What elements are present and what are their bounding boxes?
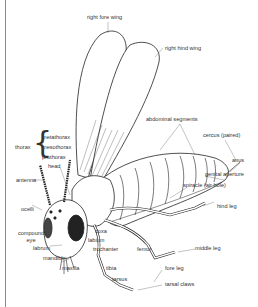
label-trochanter: trochanter (93, 247, 118, 253)
label-tibia: tibia (106, 266, 116, 272)
label-right-hind-wing: right hind wing (165, 46, 201, 52)
label-maxilla: maxilla (62, 266, 79, 272)
label-cercus: cercus (paired) (203, 133, 240, 139)
label-compound-eye-line2: eye (16, 238, 46, 244)
label-femur: femur (137, 247, 151, 253)
antenna-shape (40, 165, 50, 205)
label-antenna: antenna (16, 178, 36, 184)
label-coxa: coxa (95, 229, 107, 235)
label-abdominal-segments: abdominal segments (146, 117, 198, 123)
label-head: head (48, 164, 60, 170)
thorax-brace: { (33, 128, 52, 158)
label-genital-aperture: genital aperture (205, 172, 244, 178)
label-labium: labium (88, 238, 104, 244)
label-fore-leg: fore leg (165, 266, 184, 272)
label-thorax: thorax (15, 145, 31, 151)
abdomen-shape (95, 153, 228, 226)
label-spiracle: spiracle (air hole) (183, 183, 226, 189)
label-hind-leg: hind leg (217, 204, 237, 210)
label-tarsus: tarsus (112, 277, 127, 283)
label-labrum: labrum (33, 246, 50, 252)
label-tarsal-claws: tarsal claws (165, 282, 194, 288)
label-mandible: mandible (43, 256, 66, 262)
label-anus: anus (232, 158, 244, 164)
label-right-fore-wing: right fore wing (87, 15, 122, 21)
label-middle-leg: middle leg (195, 246, 221, 252)
label-ocelli: ocelli (21, 207, 34, 213)
compound-eye-shape (68, 215, 84, 241)
label-compound-eye-line1: compound (16, 231, 46, 237)
